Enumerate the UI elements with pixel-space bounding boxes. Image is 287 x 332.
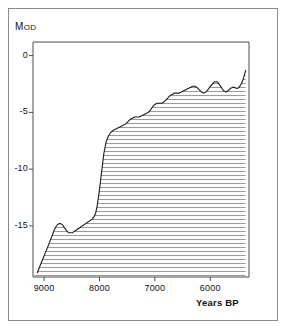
x-tick-label: 6000 (192, 283, 228, 293)
y-axis-title-small: OD (24, 23, 37, 32)
figure-root: MOD Years BP 0-5-10-159000800070006000 (0, 0, 287, 332)
y-axis-title-main: M (15, 21, 24, 32)
curve-area-hatch-fill (33, 44, 249, 276)
x-axis-title: Years BP (196, 297, 239, 308)
x-tick-label: 9000 (26, 283, 62, 293)
y-tick-label: -10 (4, 163, 28, 173)
y-tick-label: -5 (4, 106, 28, 116)
x-tick-label: 7000 (137, 283, 173, 293)
y-axis-title: MOD (15, 21, 36, 32)
y-axis-ticks (29, 56, 33, 226)
y-tick-label: -15 (4, 220, 28, 230)
y-tick-label: 0 (4, 50, 28, 60)
x-axis-ticks (44, 277, 210, 281)
x-tick-label: 8000 (81, 283, 117, 293)
